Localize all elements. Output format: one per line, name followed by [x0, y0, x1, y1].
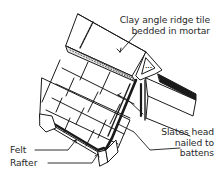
svg-text:•••: •••	[145, 65, 152, 70]
felt-label: Felt	[10, 145, 26, 156]
slates-label: Slates head nailed to battens	[150, 127, 214, 159]
ridge-tile-label-line1: Clay angle ridge tile	[118, 15, 210, 26]
rafter-label: Rafter	[10, 158, 37, 169]
slates-label-line3: battens	[150, 148, 214, 159]
ridge-tile-label: Clay angle ridge tile bedded in mortar	[118, 15, 210, 36]
slates-label-line1: Slates head	[150, 127, 214, 138]
ridge-tile-label-line2: bedded in mortar	[118, 26, 210, 37]
